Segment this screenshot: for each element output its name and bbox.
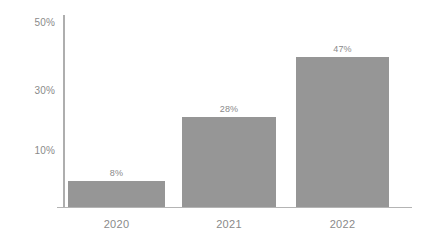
bar-chart: 50% 30% 10% 8% 2020 28% 2021 47% 2022 [0,0,422,237]
bar-2022[interactable] [296,57,389,207]
x-axis-category-label: 2022 [296,218,389,230]
x-axis-category-label: 2021 [182,218,276,230]
y-axis-line [63,15,65,208]
y-axis-tick-0: 50% [0,17,55,29]
bar-value-label: 8% [68,168,165,178]
x-axis-category-label: 2020 [68,218,165,230]
y-axis-tick-1: 30% [0,85,55,97]
y-axis-tick-label: 50% [15,17,55,28]
bar-2021[interactable] [182,117,276,207]
bar-value-label: 28% [182,104,276,114]
y-axis-tick-label: 30% [15,85,55,96]
y-axis-tick-2: 10% [0,145,55,157]
bar-value-label: 47% [296,44,389,54]
bar-column: 8% 2020 [68,0,165,237]
bar-2020[interactable] [68,181,165,207]
y-axis-tick-label: 10% [15,145,55,156]
bar-column: 47% 2022 [296,0,389,237]
bar-column: 28% 2021 [182,0,276,237]
